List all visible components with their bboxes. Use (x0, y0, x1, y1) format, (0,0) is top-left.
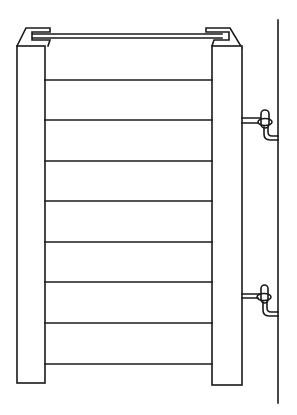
left-rail (17, 28, 50, 383)
top-crossbar (32, 34, 222, 38)
rungs (45, 80, 212, 364)
ladder-diagram (0, 0, 297, 415)
lower-wall-hook (242, 285, 278, 316)
upper-wall-hook (242, 110, 278, 140)
right-rail (206, 28, 242, 385)
